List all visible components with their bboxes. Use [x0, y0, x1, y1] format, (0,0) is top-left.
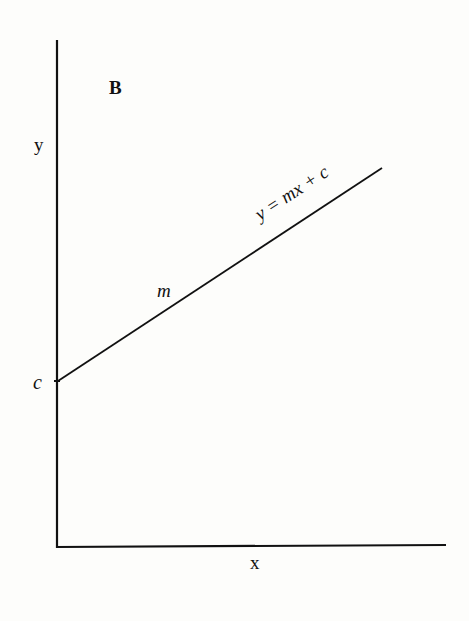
linear-function-line	[58, 168, 382, 381]
linear-equation-diagram: B y x c m y = mx + c	[0, 0, 469, 621]
slope-label: m	[157, 280, 171, 301]
intercept-label: c	[33, 371, 42, 393]
x-axis	[56, 545, 446, 547]
y-axis-label: y	[34, 134, 44, 155]
equation-label: y = mx + c	[249, 161, 333, 226]
x-axis-label: x	[250, 552, 260, 573]
panel-label: B	[109, 77, 122, 98]
